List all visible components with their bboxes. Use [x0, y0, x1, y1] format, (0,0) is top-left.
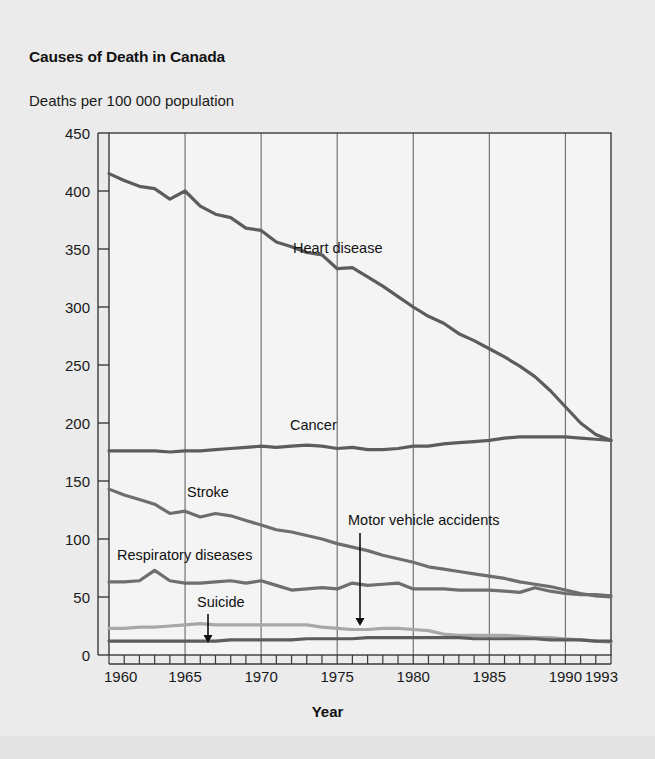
label-suicide: Suicide	[197, 594, 245, 610]
y-tick-label: 400	[65, 183, 90, 200]
y-tick-label: 150	[65, 473, 90, 490]
y-tick-label: 200	[65, 415, 90, 432]
label-stroke: Stroke	[187, 484, 229, 500]
x-tick-label: 1970	[244, 668, 277, 685]
line-chart-plot: 050100150200250300350400450 196019651970…	[0, 0, 655, 759]
label-heart-disease: Heart disease	[293, 240, 382, 256]
x-tick-label: 1993	[585, 668, 618, 685]
y-tick-label: 450	[65, 125, 90, 142]
label-cancer: Cancer	[290, 417, 337, 433]
x-tick-label: 1975	[320, 668, 353, 685]
label-respiratory-diseases: Respiratory diseases	[117, 547, 252, 563]
x-tick-label: 1985	[473, 668, 506, 685]
y-tick-label: 250	[65, 357, 90, 374]
y-tick-label: 50	[73, 589, 90, 606]
x-tick-label: 1960	[104, 668, 137, 685]
footer-band	[0, 736, 655, 759]
label-motor-vehicle-accidents: Motor vehicle accidents	[348, 512, 500, 528]
x-tick-label: 1965	[168, 668, 201, 685]
y-tick-label: 100	[65, 531, 90, 548]
y-axis-ticks: 050100150200250300350400450	[65, 125, 109, 664]
x-tick-label: 1980	[397, 668, 430, 685]
y-tick-label: 350	[65, 241, 90, 258]
figure-container: Causes of Death in Canada Deaths per 100…	[0, 0, 655, 759]
y-tick-label: 300	[65, 299, 90, 316]
x-axis-ticks: 19601965197019751980198519901993	[104, 655, 618, 685]
y-tick-label: 0	[82, 647, 90, 664]
x-axis-title: Year	[0, 703, 655, 720]
x-tick-label: 1990	[549, 668, 582, 685]
